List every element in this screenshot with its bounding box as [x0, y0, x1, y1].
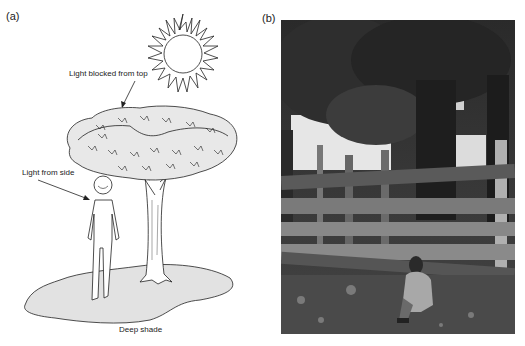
annotation-deep-shade: Deep shade: [119, 325, 162, 334]
sun-icon: [148, 14, 218, 92]
annotation-light-blocked-from-top: Light blocked from top: [69, 69, 148, 78]
photo-person-in-shade: [281, 20, 515, 334]
shade-area: [25, 265, 233, 324]
annotation-light-from-side: Light from side: [22, 168, 74, 177]
tree-canopy: [67, 106, 237, 180]
arrow-side-icon: [38, 180, 88, 199]
